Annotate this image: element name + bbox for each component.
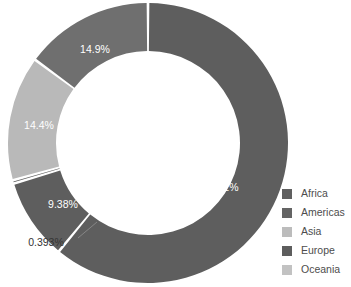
legend-item-label: Europe — [301, 245, 335, 256]
legend-item-label: Asia — [301, 226, 321, 237]
legend-swatch-icon — [282, 208, 292, 218]
chart-legend: AfricaAmericasAsiaEuropeOceania — [282, 184, 351, 279]
legend-swatch-icon — [282, 189, 292, 199]
legend-swatch-icon — [282, 246, 292, 256]
legend-item-europe[interactable]: Europe — [282, 241, 351, 260]
legend-swatch-icon — [282, 227, 292, 237]
legend-item-label: Americas — [301, 207, 345, 218]
donut-chart: 61%9.38%0.393%14.4%14.9% AfricaAmericasA… — [0, 0, 351, 287]
slice-value-label: 14.4% — [24, 119, 54, 131]
legend-item-asia[interactable]: Asia — [282, 222, 351, 241]
legend-item-label: Africa — [301, 188, 328, 199]
legend-item-africa[interactable]: Africa — [282, 184, 351, 203]
slice-value-label: 61% — [217, 181, 238, 193]
legend-item-oceania[interactable]: Oceania — [282, 260, 351, 279]
legend-swatch-icon — [282, 265, 292, 275]
slice-value-label: 0.393% — [28, 236, 64, 248]
legend-item-americas[interactable]: Americas — [282, 203, 351, 222]
slice-value-label: 14.9% — [80, 43, 110, 55]
legend-item-label: Oceania — [301, 264, 340, 275]
slice-value-label: 9.38% — [48, 198, 78, 210]
